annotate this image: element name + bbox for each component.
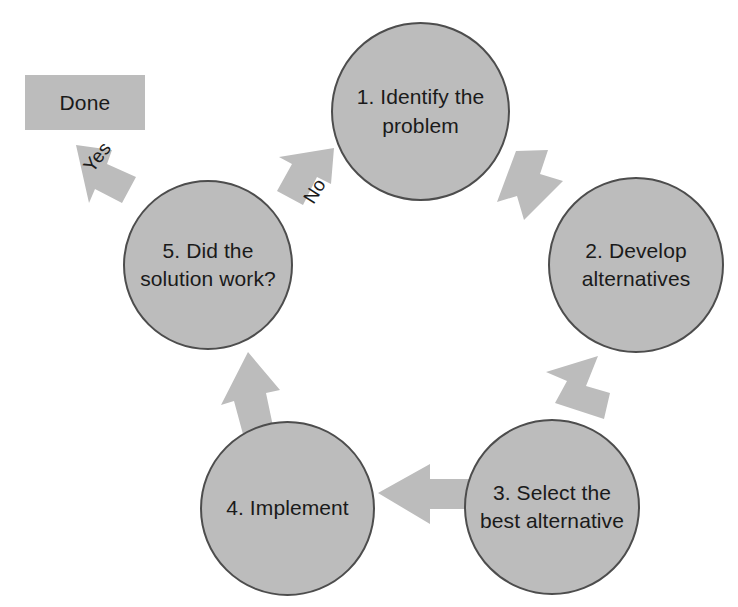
node-step-5[interactable]: 5. Did the solution work? [123, 180, 293, 350]
node-step-3[interactable]: 3. Select the best alternative [464, 419, 640, 595]
edge-label-yes: Yes [79, 138, 116, 177]
terminal-done[interactable]: Done [25, 75, 145, 130]
terminal-done-label: Done [59, 91, 110, 115]
node-step-1-label: 1. Identify the problem [357, 83, 485, 140]
node-step-3-label: 3. Select the best alternative [480, 479, 624, 536]
node-step-2-label: 2. Develop alternatives [582, 237, 691, 294]
node-step-5-label: 5. Did the solution work? [140, 237, 276, 294]
node-step-2[interactable]: 2. Develop alternatives [548, 177, 724, 353]
node-step-4[interactable]: 4. Implement [200, 421, 375, 596]
diagram-canvas: Done Yes No 1. Identify the problem 2. D… [0, 0, 738, 607]
node-step-4-label: 4. Implement [226, 494, 349, 522]
arrow-step2-to-step3 [546, 356, 610, 419]
node-step-1[interactable]: 1. Identify the problem [331, 22, 510, 201]
edge-label-no: No [299, 175, 331, 208]
arrow-step1-to-step2 [497, 150, 563, 220]
arrow-step3-to-step4 [378, 464, 472, 524]
